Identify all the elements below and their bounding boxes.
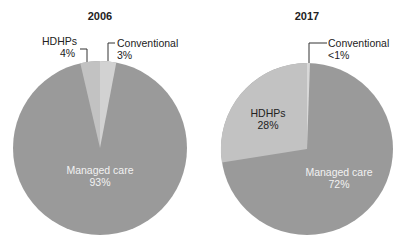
label-hdhps-2006: HDHPs xyxy=(42,35,77,47)
pct-hdhps-2006: 4% xyxy=(60,47,75,59)
pct-managed-care-2006: 93% xyxy=(89,176,110,188)
leader-hdhps-2006 xyxy=(80,49,87,62)
pie-title-2006: 2006 xyxy=(88,10,112,22)
pct-conventional-2006: 3% xyxy=(117,49,132,61)
label-hdhps-2017: HDHPs xyxy=(250,107,285,119)
label-conventional-2017: Conventional xyxy=(328,37,389,49)
leader-conventional-2017 xyxy=(309,43,327,63)
pie-charts: 2006 HDHPs 4% Conventional 3% Managed ca… xyxy=(0,0,405,248)
pie-2006: 2006 HDHPs 4% Conventional 3% Managed ca… xyxy=(13,10,187,235)
pie-2017: 2017 Conventional <1% HDHPs 28% Managed … xyxy=(221,10,393,235)
leader-conventional-2006 xyxy=(108,43,115,61)
label-conventional-2006: Conventional xyxy=(117,37,178,49)
pct-managed-care-2017: 72% xyxy=(328,178,349,190)
pie-title-2017: 2017 xyxy=(295,10,319,22)
label-managed-care-2006: Managed care xyxy=(66,164,133,176)
label-managed-care-2017: Managed care xyxy=(305,166,372,178)
pct-conventional-2017: <1% xyxy=(328,49,349,61)
pct-hdhps-2017: 28% xyxy=(257,119,278,131)
